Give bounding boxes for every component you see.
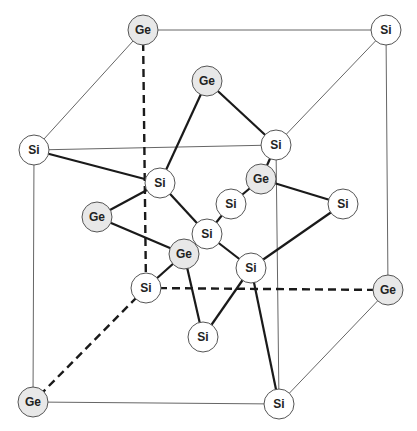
- atom-label: Si: [28, 143, 39, 157]
- bond: [34, 150, 160, 183]
- atom-label: Ge: [253, 172, 269, 186]
- cell-edge: [386, 30, 388, 290]
- cell-edge: [34, 145, 276, 150]
- hidden-cell-edge: [146, 288, 388, 290]
- atom-si: Si: [131, 273, 161, 303]
- atom-si: Si: [264, 389, 294, 419]
- atoms: GeSiSiSiGeSiGeSiSiGeSiGeSiSiGeSiGeSi: [18, 15, 403, 419]
- atom-label: Si: [154, 176, 165, 190]
- cell-edge: [34, 30, 143, 150]
- atom-label: Si: [337, 197, 348, 211]
- atom-label: Ge: [25, 395, 41, 409]
- atom-ge: Ge: [82, 202, 112, 232]
- atom-si: Si: [371, 15, 401, 45]
- hidden-cell-edge: [143, 30, 146, 288]
- atom-si: Si: [145, 168, 175, 198]
- atom-label: Ge: [176, 247, 192, 261]
- atom-label: Ge: [89, 210, 105, 224]
- atom-si: Si: [328, 189, 358, 219]
- bond: [160, 81, 207, 183]
- atom-ge: Ge: [18, 387, 48, 417]
- bond: [251, 204, 343, 268]
- atom-label: Si: [273, 397, 284, 411]
- atom-label: Si: [197, 330, 208, 344]
- atom-ge: Ge: [169, 239, 199, 269]
- atom-label: Si: [225, 197, 236, 211]
- atom-si: Si: [216, 189, 246, 219]
- atom-label: Ge: [135, 23, 151, 37]
- atom-label: Si: [140, 281, 151, 295]
- atom-si: Si: [261, 130, 291, 160]
- cell-edge: [276, 30, 386, 145]
- cell-edge: [279, 290, 388, 404]
- crystal-structure-diagram: GeSiSiSiGeSiGeSiSiGeSiGeSiSiGeSiGeSi: [0, 0, 417, 431]
- atom-ge: Ge: [192, 66, 222, 96]
- atom-ge: Ge: [246, 164, 276, 194]
- atom-label: Ge: [380, 283, 396, 297]
- atom-label: Ge: [199, 74, 215, 88]
- hidden-cell-edge: [33, 288, 146, 402]
- atom-label: Si: [201, 227, 212, 241]
- atom-si: Si: [188, 322, 218, 352]
- atom-label: Si: [380, 23, 391, 37]
- atom-label: Si: [270, 138, 281, 152]
- atom-si: Si: [19, 135, 49, 165]
- cell-edge: [33, 402, 279, 404]
- atom-si: Si: [236, 253, 266, 283]
- atom-si: Si: [192, 219, 222, 249]
- atom-ge: Ge: [128, 15, 158, 45]
- atom-ge: Ge: [373, 275, 403, 305]
- unit-cell-svg: GeSiSiSiGeSiGeSiSiGeSiGeSiSiGeSiGeSi: [0, 0, 417, 431]
- cell-edge: [33, 150, 34, 402]
- atom-label: Si: [245, 261, 256, 275]
